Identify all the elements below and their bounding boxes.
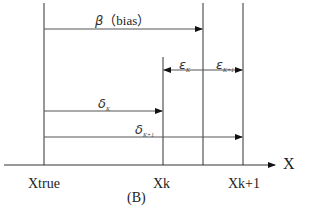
delta-symbol: δ	[135, 122, 143, 137]
epsilon-k1-label: εK+1	[216, 56, 234, 73]
figure-caption: (B)	[127, 191, 146, 205]
axis-label-x: X	[283, 156, 295, 172]
tick-label-xtrue: Xtrue	[28, 177, 60, 191]
epsilon-k-subscript: K	[186, 67, 190, 73]
delta-symbol: δ	[98, 96, 106, 111]
epsilon-symbol: ε	[216, 57, 223, 72]
delta-k1-label: δK+1	[135, 121, 154, 138]
epsilon-k-label: εK	[179, 56, 190, 73]
tick-label-xk: Xk	[153, 177, 170, 191]
epsilon-symbol: ε	[179, 57, 186, 72]
bias-label: β（bias）	[95, 14, 150, 27]
delta-k-label: δK	[98, 95, 110, 112]
delta-k1-subscript: K+1	[143, 132, 154, 138]
delta-k-subscript: K	[106, 106, 110, 112]
tick-label-xk1: Xk+1	[228, 177, 260, 191]
epsilon-k1-subscript: K+1	[223, 67, 234, 73]
bias-text: （bias）	[103, 13, 150, 28]
